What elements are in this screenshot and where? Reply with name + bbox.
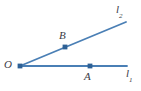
- line-label-l1: l1: [126, 68, 133, 82]
- point-marker-o: [18, 64, 23, 69]
- point-marker-a: [88, 64, 93, 69]
- ray-l2: [20, 22, 126, 66]
- point-label-a: A: [84, 71, 91, 82]
- point-label-b: B: [59, 30, 66, 41]
- line-label-l1-subscript: 1: [129, 76, 133, 84]
- line-label-l2-subscript: 2: [119, 12, 123, 20]
- point-marker-b: [63, 45, 68, 50]
- vertex-label-o: O: [4, 59, 12, 70]
- line-label-l2: l2: [116, 4, 123, 18]
- geometry-figure: O A B l1 l2: [0, 0, 141, 91]
